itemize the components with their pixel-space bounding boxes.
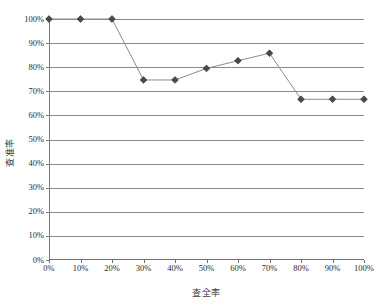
data-point-marker — [172, 77, 179, 84]
y-axis-tick-label: 10% — [28, 231, 44, 240]
x-axis-tick-labels: 0%10%20%30%40%50%60%70%80%90%100% — [49, 263, 364, 277]
y-axis-tick-label: 20% — [28, 207, 44, 216]
data-point-marker — [329, 96, 336, 103]
data-point-marker — [109, 16, 116, 23]
x-axis-tick-label: 20% — [104, 263, 120, 273]
y-axis-tick-label: 30% — [28, 183, 44, 192]
data-point-marker — [77, 16, 84, 23]
x-axis-tick-label: 10% — [73, 263, 89, 273]
x-axis-tick-label: 30% — [136, 263, 152, 273]
x-axis-tick-label: 40% — [167, 263, 183, 273]
x-axis-tick-label: 100% — [354, 263, 374, 273]
data-point-marker — [266, 50, 273, 57]
x-axis-title: 查全率 — [49, 286, 364, 299]
series-line — [49, 19, 364, 99]
y-axis-tick-labels: 0%10%20%30%40%50%60%70%80%90%100% — [14, 0, 47, 305]
x-axis-tick-label: 0% — [43, 263, 54, 273]
data-series — [49, 19, 364, 260]
x-axis-tick-label: 50% — [199, 263, 215, 273]
y-axis-tick-label: 90% — [28, 39, 44, 48]
data-point-marker — [235, 57, 242, 64]
x-axis-tick-label: 90% — [325, 263, 341, 273]
y-axis-tick-label: 40% — [28, 159, 44, 168]
y-axis-tick-label: 70% — [28, 87, 44, 96]
y-axis-tick-label: 80% — [28, 63, 44, 72]
x-axis-tick-label: 70% — [262, 263, 278, 273]
data-point-marker — [203, 65, 210, 72]
data-point-marker — [298, 96, 305, 103]
y-axis-tick-label: 60% — [28, 111, 44, 120]
plot-area — [49, 19, 364, 260]
x-axis-tick-label: 60% — [230, 263, 246, 273]
precision-recall-chart: 查准率 0%10%20%30%40%50%60%70%80%90%100% 0%… — [0, 0, 384, 305]
y-axis-tick-label: 50% — [28, 135, 44, 144]
data-point-marker — [140, 77, 147, 84]
data-point-marker — [361, 96, 368, 103]
series-markers — [46, 16, 368, 103]
y-axis-tick-label: 100% — [24, 15, 44, 24]
y-axis-tick-label: 0% — [33, 256, 44, 265]
x-axis-tick-label: 80% — [293, 263, 309, 273]
